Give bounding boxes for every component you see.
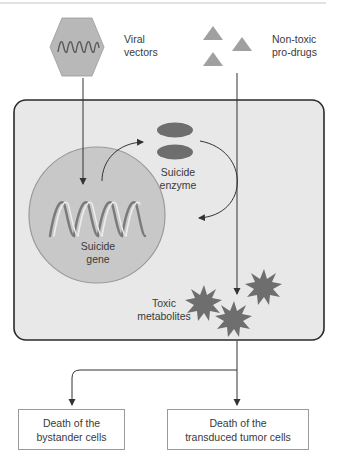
label-line: Viral xyxy=(124,33,158,46)
label-line: Non-toxic xyxy=(272,33,317,46)
box-line: Death of the xyxy=(209,416,266,430)
suicide-enzyme-label: Suicide enzyme xyxy=(150,166,206,192)
box-line: transduced tumor cells xyxy=(185,430,291,444)
box-line: bystander cells xyxy=(36,430,106,444)
enzyme-icon xyxy=(157,123,193,138)
label-line: pro-drugs xyxy=(272,46,317,59)
transduced-death-box: Death of the transduced tumor cells xyxy=(167,409,309,450)
label-line: enzyme xyxy=(150,179,206,192)
label-line: gene xyxy=(70,253,126,266)
diagram-canvas xyxy=(0,0,340,459)
label-line: Toxic xyxy=(134,297,194,310)
enzyme-icon xyxy=(157,145,193,160)
label-line: metabolites xyxy=(134,310,194,323)
label-line: Suicide xyxy=(70,240,126,253)
viral-vectors-label: Viral vectors xyxy=(124,33,158,59)
label-line: Suicide xyxy=(150,166,206,179)
to-bystander-death-arrow xyxy=(72,370,237,405)
label-line: vectors xyxy=(124,46,158,59)
bystander-death-box: Death of the bystander cells xyxy=(18,409,125,450)
prodrug-triangle-icon xyxy=(203,26,223,40)
box-line: Death of the xyxy=(43,416,100,430)
suicide-gene-label: Suicide gene xyxy=(70,240,126,266)
prodrug-icons xyxy=(203,26,252,66)
toxic-metabolites-label: Toxic metabolites xyxy=(134,297,194,323)
prodrug-triangle-icon xyxy=(232,37,252,51)
prodrug-triangle-icon xyxy=(203,52,223,66)
prodrugs-label: Non-toxic pro-drugs xyxy=(272,33,317,59)
